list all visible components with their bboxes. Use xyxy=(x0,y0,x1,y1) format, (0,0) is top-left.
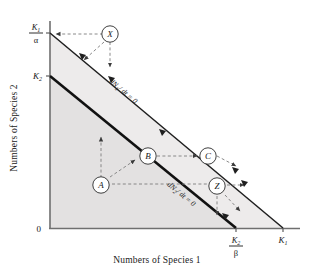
svg-text:K2: K2 xyxy=(231,235,241,246)
point-label-X: X xyxy=(106,29,113,39)
x-tick-left-numerator-sub: 2 xyxy=(237,240,240,246)
point-marker-B: B xyxy=(140,148,156,164)
y-tick-lower-sub: 2 xyxy=(39,76,42,82)
y-tick-K2: K2 xyxy=(32,71,42,82)
x-axis-title: Numbers of Species 1 xyxy=(113,255,201,265)
y-tick-upper-numerator-sub: 1 xyxy=(37,27,40,33)
origin-label: 0 xyxy=(37,224,42,234)
y-tick-upper-denominator: α xyxy=(34,35,39,45)
point-label-A: A xyxy=(97,180,104,190)
svg-text:K1: K1 xyxy=(31,22,41,33)
x-tick-right-sub: 1 xyxy=(285,240,288,246)
x-tick-K1: K1 xyxy=(277,235,287,246)
point-marker-A: A xyxy=(93,177,109,193)
point-label-C: C xyxy=(205,151,212,161)
point-marker-Z: Z xyxy=(209,178,225,194)
x-tick-left-denominator: β xyxy=(234,248,238,258)
svg-text:K1: K1 xyxy=(277,235,287,246)
competition-isocline-figure: K1 α K2 0 K2 β K1 dN1/ dt = 0 dN2/ dt = … xyxy=(0,0,314,270)
point-marker-C: C xyxy=(200,148,216,164)
point-label-B: B xyxy=(145,151,151,161)
point-marker-X: X xyxy=(102,26,118,42)
svg-text:K2: K2 xyxy=(32,71,42,82)
x-tick-K2-over-beta: K2 β xyxy=(229,235,243,258)
y-tick-K1-over-alpha: K1 α xyxy=(29,22,43,45)
y-axis-title: Numbers of Species 2 xyxy=(9,84,19,172)
